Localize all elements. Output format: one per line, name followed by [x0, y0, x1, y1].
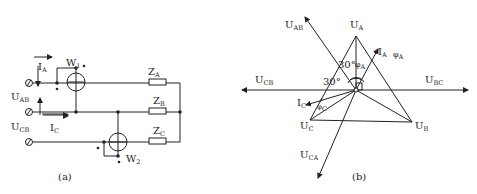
figure-canvas: W1 W2 ZA ZB ZC UAB UCB IA IC (a) UA UB U…: [0, 0, 477, 194]
caption-a: (a): [58, 171, 72, 182]
label-uab-b: UAB: [285, 19, 303, 32]
label-za: ZA: [148, 66, 160, 79]
label-ia: IA: [38, 61, 47, 74]
label-w2: W2: [126, 153, 140, 166]
impedance-zb: [149, 108, 166, 114]
label-uca-b: UCA: [300, 149, 318, 162]
label-ic: IC: [50, 122, 59, 135]
label-phi-a-outer: φA: [393, 50, 404, 61]
label-zc: ZC: [153, 125, 165, 138]
label-phi-c: φC: [317, 103, 327, 113]
label-uc: UC: [300, 120, 313, 133]
label-zb: ZB: [153, 95, 165, 108]
label-ubc-b: UBC: [425, 74, 443, 87]
label-ua: UA: [350, 19, 363, 32]
label-ucb-b: UCB: [255, 74, 273, 87]
impedance-za: [149, 79, 166, 85]
label-phi-a-inner: φA: [355, 60, 366, 71]
label-ic-b: IC: [297, 97, 306, 110]
label-ub: UB: [415, 120, 428, 133]
label-angle-30-top: 30°: [338, 59, 356, 70]
label-angle-30-left: 30°: [323, 76, 341, 87]
label-ucb: UCB: [11, 121, 29, 134]
phasor-diagram-b: [242, 17, 468, 178]
impedance-zc: [149, 138, 166, 144]
label-ia-b: IA: [378, 46, 387, 59]
label-uab: UAB: [11, 91, 29, 104]
caption-b: (b): [352, 171, 366, 182]
